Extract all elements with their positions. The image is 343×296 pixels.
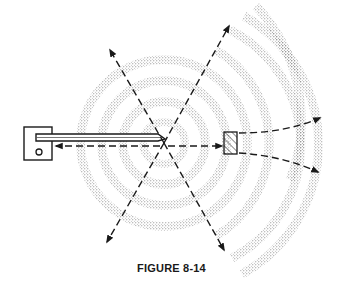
housing-knob [36,149,42,155]
outer-arc-3 [242,16,318,274]
arrow-scatter-upper [239,118,320,133]
figure-caption: FIGURE 8-14 [0,262,343,274]
wave-generator-housing [24,127,52,160]
hatched-obstacle [224,132,237,154]
vibrating-rod [36,134,165,141]
wave-diagram [0,0,343,296]
